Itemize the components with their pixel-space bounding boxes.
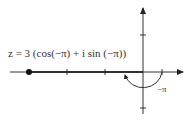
point-z [26,69,143,75]
equation-label: z = 3 (cos(−π) + i sin (−π)) [8,47,126,59]
angle-label: −π [157,84,167,94]
complex-plane-diagram [0,0,190,121]
